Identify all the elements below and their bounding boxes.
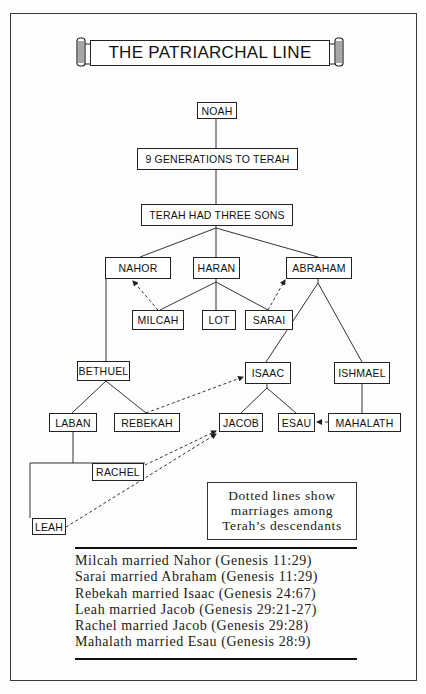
node-noah: NOAH (197, 102, 237, 119)
node-rebekah: REBEKAH (114, 413, 180, 432)
legend-line-1: Dotted lines show (208, 488, 356, 503)
legend: Dotted lines show marriages among Terah’… (207, 482, 357, 540)
node-jacob: JACOB (219, 413, 263, 432)
node-bethuel: BETHUEL (77, 361, 130, 381)
node-terah: TERAH HAD THREE SONS (141, 204, 293, 226)
node-milcah: MILCAH (132, 310, 184, 330)
divider-top (75, 547, 357, 549)
node-esau: ESAU (278, 413, 315, 432)
marriage-item: Mahalath married Esau (Genesis 28:9) (75, 634, 375, 650)
legend-line-2: marriages among (208, 503, 356, 518)
node-isaac: ISAAC (245, 362, 291, 384)
node-nahor: NAHOR (105, 257, 171, 279)
scroll-left-end-icon (76, 36, 90, 68)
marriage-item: Rebekah married Isaac (Genesis 24:67) (75, 586, 375, 602)
legend-line-3: Terah’s descendants (208, 518, 356, 533)
page-title: THE PATRIARCHAL LINE (90, 40, 330, 66)
marriage-item: Sarai married Abraham (Genesis 11:29) (75, 569, 375, 585)
node-nine-generations: 9 GENERATIONS TO TERAH (137, 148, 298, 170)
marriage-list: Milcah married Nahor (Genesis 11:29) Sar… (75, 553, 375, 651)
node-leah: LEAH (32, 518, 66, 535)
marriage-item: Leah married Jacob (Genesis 29:21-27) (75, 602, 375, 618)
node-laban: LABAN (49, 413, 97, 432)
node-ishmael: ISHMAEL (334, 362, 390, 384)
node-sarai: SARAI (245, 310, 293, 330)
node-rachel: RACHEL (92, 463, 144, 481)
divider-bottom (75, 658, 357, 660)
marriage-item: Milcah married Nahor (Genesis 11:29) (75, 553, 375, 569)
marriage-item: Rachel married Jacob (Genesis 29:28) (75, 618, 375, 634)
node-abraham: ABRAHAM (286, 257, 352, 279)
node-lot: LOT (202, 310, 236, 330)
node-haran: HARAN (193, 257, 240, 279)
scroll-right-end-icon (330, 36, 344, 68)
node-mahalath: MAHALATH (328, 413, 401, 432)
